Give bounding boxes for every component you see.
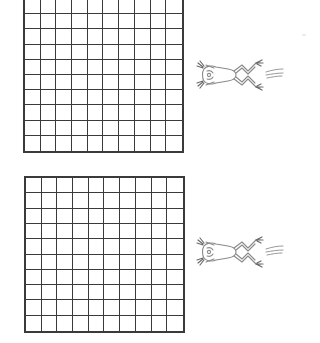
grid-cell bbox=[72, 90, 88, 105]
grid-cell bbox=[166, 136, 182, 151]
grid-cell bbox=[88, 29, 104, 44]
grid-cell bbox=[57, 224, 73, 239]
grid-cell bbox=[152, 255, 168, 270]
grid-cell bbox=[26, 255, 42, 270]
grid-cell bbox=[167, 316, 183, 331]
grid-cell bbox=[42, 255, 58, 270]
grid-cell bbox=[57, 285, 73, 300]
grid-cell bbox=[104, 239, 120, 254]
grid-cell bbox=[88, 90, 104, 105]
grid-cell bbox=[120, 270, 136, 285]
grid-cell bbox=[89, 285, 105, 300]
grid-cell bbox=[166, 90, 182, 105]
grid-cell bbox=[89, 239, 105, 254]
grid-cell bbox=[152, 285, 168, 300]
grid-cell bbox=[57, 255, 73, 270]
grid-cell bbox=[88, 105, 104, 120]
grid-cell bbox=[56, 136, 72, 151]
grid-cell bbox=[25, 60, 41, 75]
grid-cell bbox=[73, 270, 89, 285]
grid-cell bbox=[166, 14, 182, 29]
grid-cell bbox=[88, 121, 104, 136]
grid-cell bbox=[41, 29, 57, 44]
leaping-frog-icon bbox=[196, 59, 284, 91]
grid-cell bbox=[166, 105, 182, 120]
grid-cell bbox=[136, 239, 152, 254]
grid-cell bbox=[26, 316, 42, 331]
grid-cell bbox=[167, 255, 183, 270]
grid-cell bbox=[56, 105, 72, 120]
grid-cell bbox=[103, 45, 119, 60]
grid-cell bbox=[73, 300, 89, 315]
grid-cell bbox=[119, 45, 135, 60]
grid-cell bbox=[136, 255, 152, 270]
grid-cell bbox=[103, 14, 119, 29]
grid-cell bbox=[151, 75, 167, 90]
grid-cell bbox=[42, 300, 58, 315]
grid-cell bbox=[152, 193, 168, 208]
grid-cell bbox=[89, 316, 105, 331]
leaping-frog-icon bbox=[196, 236, 284, 268]
grid-cell bbox=[119, 136, 135, 151]
grid-cell bbox=[88, 0, 104, 14]
grid-cell bbox=[103, 0, 119, 14]
grid-cell bbox=[88, 75, 104, 90]
grid-cell bbox=[119, 14, 135, 29]
grid-cell bbox=[152, 209, 168, 224]
grid-cell bbox=[56, 14, 72, 29]
grid-cell bbox=[119, 0, 135, 14]
grid-cell bbox=[135, 136, 151, 151]
grid-cell bbox=[41, 60, 57, 75]
grid-cell bbox=[103, 121, 119, 136]
grid-cell bbox=[88, 45, 104, 60]
grid-cell bbox=[167, 193, 183, 208]
grid-cell bbox=[73, 224, 89, 239]
grid-cell bbox=[104, 270, 120, 285]
grid-cell bbox=[104, 255, 120, 270]
grid-cell bbox=[136, 224, 152, 239]
grid-cell bbox=[120, 193, 136, 208]
grid-cell bbox=[120, 239, 136, 254]
grid-cell bbox=[56, 45, 72, 60]
grid-cell bbox=[42, 209, 58, 224]
grid-cell bbox=[135, 90, 151, 105]
grid-cell bbox=[57, 209, 73, 224]
grid-cell bbox=[72, 136, 88, 151]
grid-cell bbox=[119, 60, 135, 75]
grid-cell bbox=[104, 209, 120, 224]
grid-cell bbox=[26, 193, 42, 208]
grid-cell bbox=[25, 45, 41, 60]
grid-cell bbox=[119, 121, 135, 136]
grid-cell bbox=[56, 90, 72, 105]
grid-cell bbox=[56, 75, 72, 90]
grid-cell bbox=[119, 75, 135, 90]
grid-cell bbox=[135, 0, 151, 14]
grid-cell bbox=[135, 14, 151, 29]
grid-cell bbox=[152, 239, 168, 254]
grid-cell bbox=[151, 14, 167, 29]
grid-cell bbox=[72, 29, 88, 44]
grid-cell bbox=[41, 0, 57, 14]
grid-cell bbox=[73, 255, 89, 270]
grid-cell bbox=[88, 60, 104, 75]
grid-cell bbox=[56, 0, 72, 14]
grid-cell bbox=[120, 224, 136, 239]
grid-cell bbox=[167, 300, 183, 315]
grid-cell bbox=[119, 90, 135, 105]
grid-cell bbox=[103, 29, 119, 44]
grid-cell bbox=[104, 316, 120, 331]
grid-cell bbox=[120, 209, 136, 224]
grid-cell bbox=[26, 285, 42, 300]
grid-cell bbox=[136, 270, 152, 285]
grid-cell bbox=[151, 29, 167, 44]
grid-cell bbox=[103, 60, 119, 75]
grid-cell bbox=[73, 239, 89, 254]
grid-cell bbox=[136, 178, 152, 193]
grid-cell bbox=[135, 29, 151, 44]
grid-cell bbox=[135, 105, 151, 120]
grid-cell bbox=[167, 178, 183, 193]
grid-cell bbox=[166, 45, 182, 60]
grid-cell bbox=[41, 45, 57, 60]
grid-cell bbox=[25, 14, 41, 29]
grid-cell bbox=[42, 270, 58, 285]
